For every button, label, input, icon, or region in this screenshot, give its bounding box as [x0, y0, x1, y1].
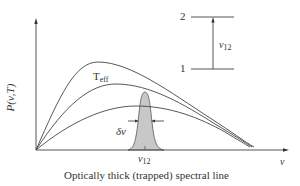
teff-label-main: T — [93, 70, 100, 82]
energy-level-upper-label: 2 — [180, 11, 186, 22]
diagram-caption: Optically thick (trapped) spectral line — [64, 170, 229, 181]
linewidth-label: δν — [116, 126, 126, 137]
transition-label: ν12 — [219, 40, 231, 52]
teff-label-sub: eff — [100, 75, 109, 84]
y-axis-arrow-icon — [34, 18, 37, 24]
x-axis-arrow-icon — [283, 148, 289, 151]
transition-arrowhead-icon — [211, 17, 214, 23]
transition-label-sub: 12 — [223, 43, 231, 52]
x-axis-label: ν — [280, 157, 284, 167]
line-center-label-sub: 12 — [142, 157, 150, 166]
line-center-label: ν12 — [138, 154, 150, 166]
teff-label: Teff — [93, 71, 108, 84]
y-axis-label: P(ν,T) — [5, 84, 16, 112]
energy-level-lower-label: 1 — [180, 63, 186, 74]
